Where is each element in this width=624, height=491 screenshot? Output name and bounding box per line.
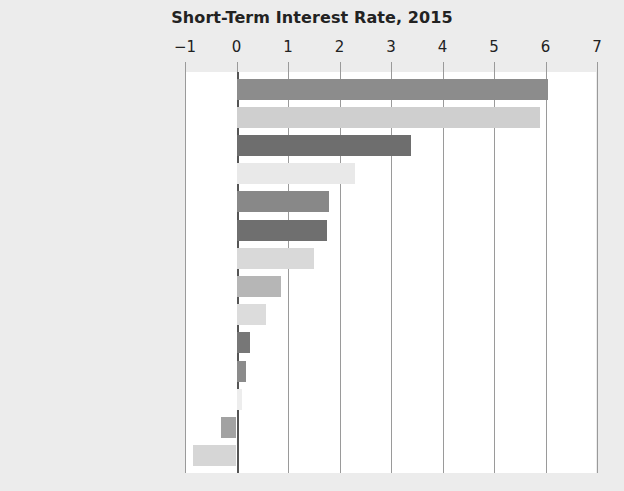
x-tick-label: 1 bbox=[268, 38, 308, 56]
bar bbox=[237, 191, 330, 212]
bar bbox=[237, 135, 411, 156]
x-tick-label: 4 bbox=[423, 38, 463, 56]
bars-container bbox=[185, 72, 596, 473]
bar bbox=[237, 220, 328, 241]
bar bbox=[237, 248, 314, 269]
x-tick-label: 3 bbox=[371, 38, 411, 56]
bar bbox=[237, 389, 242, 410]
bar bbox=[237, 79, 549, 100]
bar bbox=[193, 445, 237, 466]
tick-mark bbox=[237, 62, 238, 72]
x-tick-label: 6 bbox=[526, 38, 566, 56]
tick-mark bbox=[443, 62, 444, 72]
tick-mark bbox=[546, 62, 547, 72]
tick-mark bbox=[597, 62, 598, 72]
y-axis-category-labels: South AfricaIcelandMexicoAustraliaSouth … bbox=[0, 0, 178, 491]
x-tick-label: 2 bbox=[320, 38, 360, 56]
bar-chart: Short-Term Interest Rate, 2015 −10123456… bbox=[0, 0, 624, 491]
tick-mark bbox=[494, 62, 495, 72]
bar bbox=[237, 361, 246, 382]
bar bbox=[237, 304, 266, 325]
bar bbox=[237, 163, 356, 184]
bar bbox=[221, 417, 237, 438]
tick-mark bbox=[340, 62, 341, 72]
tick-mark bbox=[391, 62, 392, 72]
bar bbox=[237, 276, 282, 297]
gridline-7 bbox=[597, 72, 598, 473]
x-tick-label: 5 bbox=[474, 38, 514, 56]
tick-mark bbox=[288, 62, 289, 72]
x-tick-label: 7 bbox=[577, 38, 617, 56]
x-tick-label: 0 bbox=[217, 38, 257, 56]
bar bbox=[237, 107, 541, 128]
bar bbox=[237, 332, 250, 353]
tick-mark bbox=[185, 62, 186, 72]
